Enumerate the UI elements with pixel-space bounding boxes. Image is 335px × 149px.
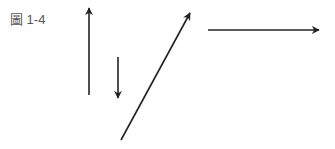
arrow-diagonal-icon — [121, 13, 190, 140]
vector-diagram — [0, 0, 335, 149]
